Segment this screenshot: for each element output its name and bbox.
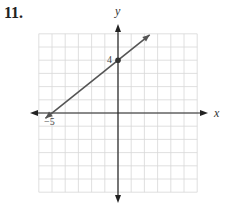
y-intercept-point bbox=[115, 57, 121, 63]
coordinate-plane: x y 4 −5 bbox=[0, 0, 238, 207]
x-axis-label: x bbox=[213, 106, 220, 120]
y-axis-label: y bbox=[114, 4, 121, 18]
x-intercept-label: −5 bbox=[44, 116, 55, 127]
x-axis bbox=[30, 110, 208, 116]
y-intercept-label: 4 bbox=[107, 54, 112, 65]
